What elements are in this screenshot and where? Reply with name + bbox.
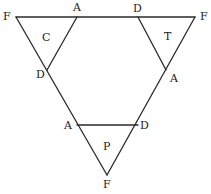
left-edge [16,17,107,175]
vertex-label-d-bottom: D [140,120,149,131]
vertex-label-f-top-right: F [200,11,208,22]
vertex-label-a-top: A [73,2,81,13]
vertex-label-f-top-left: F [3,11,11,22]
face-label-c: C [42,32,50,43]
vertex-label-a-right: A [170,73,178,84]
vertex-label-f-bottom: F [103,179,111,190]
face-label-p: P [103,141,110,152]
fold-line-c [47,17,77,70]
vertex-label-a-bottom: A [64,120,72,131]
vertex-label-d-left: D [36,69,45,80]
face-label-t: T [164,31,171,42]
vertex-label-d-top: D [133,3,142,14]
fold-line-t [138,17,166,70]
triangle-diagram [0,0,211,194]
